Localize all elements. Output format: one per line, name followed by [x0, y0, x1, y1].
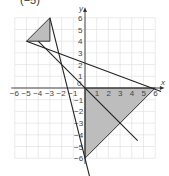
y-tick-label: −2: [74, 107, 84, 116]
x-tick-label: −5: [22, 89, 32, 98]
x-tick-label: 1: [95, 89, 100, 98]
x-tick-label: 3: [118, 89, 123, 98]
y-tick-label: 1: [78, 72, 83, 81]
line-a: [27, 41, 162, 91]
x-tick-label: −6: [10, 89, 20, 98]
y-tick-label: −1: [74, 96, 84, 105]
x-tick-label: −2: [57, 89, 67, 98]
x-tick-label: 5: [142, 89, 147, 98]
x-tick-label: −3: [45, 89, 55, 98]
y-tick-label: 5: [78, 26, 83, 35]
y-axis-label: y: [78, 4, 84, 13]
y-axis-arrow-icon: [83, 7, 87, 12]
x-tick-label: 4: [130, 89, 135, 98]
coordinate-plane: yx−6−5−4−3−2−10123456654321−1−2−3−4−5−6: [0, 0, 169, 176]
x-axis-label: x: [160, 78, 166, 87]
y-tick-label: 6: [78, 14, 83, 23]
y-tick-label: 3: [78, 49, 83, 58]
y-tick-label: 4: [78, 37, 83, 46]
x-tick-label: −4: [33, 89, 43, 98]
y-tick-label: −6: [74, 154, 84, 163]
x-tick-label: 2: [106, 89, 111, 98]
